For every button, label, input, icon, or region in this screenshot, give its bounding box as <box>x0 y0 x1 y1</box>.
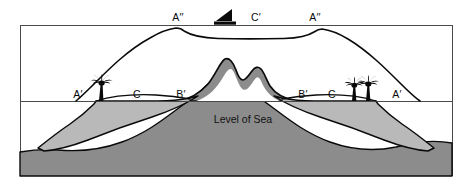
central-volcanic-peak <box>178 59 296 101</box>
tree-right-b-fronds <box>344 77 364 88</box>
sailboat-sail <box>216 9 232 21</box>
tree-right-a-trunk <box>366 85 370 101</box>
label-level-of-sea: Level of Sea <box>214 113 273 125</box>
label-present-lagoon-right: C <box>328 88 336 100</box>
geological-cross-section-figure: A′′ C′ A′′ A′ C B′ B′ C A′ Level of Sea <box>0 0 473 187</box>
label-present-shore-left: A′ <box>73 88 82 100</box>
label-present-shore-right: A′ <box>392 88 401 100</box>
label-former-sea-level-right: A′′ <box>309 11 321 23</box>
sailboat-icon <box>214 9 236 25</box>
label-former-sea-level-left: A′′ <box>172 11 184 23</box>
cross-section-canvas: A′′ C′ A′′ A′ C B′ B′ C A′ Level of Sea <box>0 0 473 187</box>
label-former-lagoon: C′ <box>251 11 261 23</box>
palm-tree-icon <box>91 74 113 101</box>
label-reef-crest-right: B′ <box>298 88 307 100</box>
label-reef-crest-left: B′ <box>176 88 185 100</box>
palm-tree-trunk <box>99 84 103 101</box>
sailboat-hull <box>214 22 236 25</box>
tree-right-b-trunk <box>352 86 356 101</box>
label-present-lagoon-left: C <box>133 88 141 100</box>
